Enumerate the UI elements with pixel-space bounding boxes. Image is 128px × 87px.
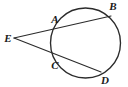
geometry-canvas: E A B C D: [0, 0, 128, 87]
point-label-d: D: [100, 74, 109, 86]
point-label-e: E: [3, 32, 11, 44]
point-label-b: B: [108, 0, 116, 12]
circle-shape: [51, 8, 121, 78]
secant-line-e-b: [14, 16, 111, 38]
geometry-figure: E A B C D: [0, 0, 128, 87]
point-label-a: A: [50, 13, 58, 25]
point-label-c: C: [51, 59, 59, 71]
